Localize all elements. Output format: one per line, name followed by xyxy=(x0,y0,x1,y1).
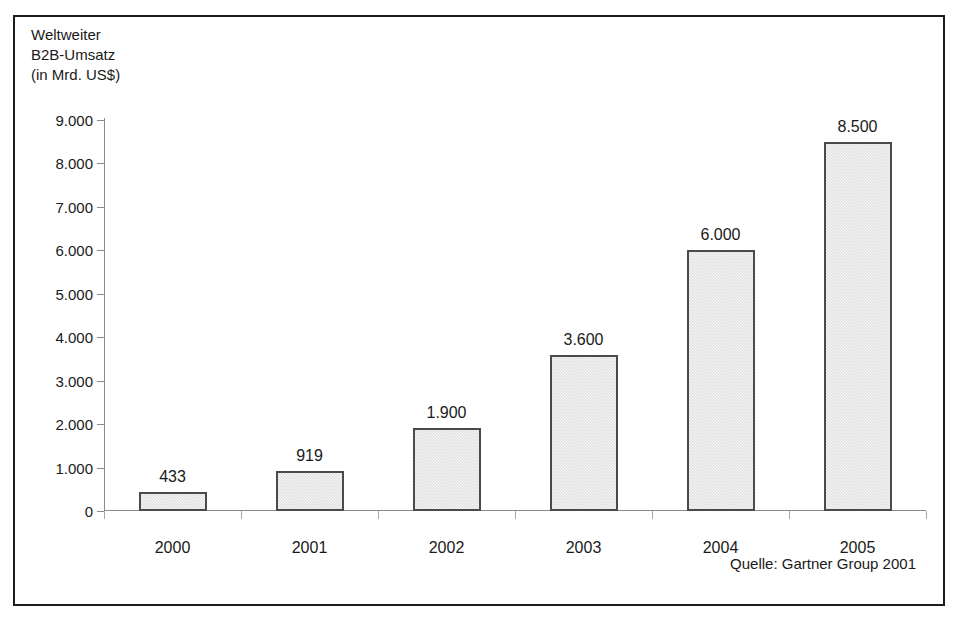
x-axis-tick xyxy=(926,511,927,519)
x-axis-tick xyxy=(515,511,516,519)
bar-group: 3.6002003 xyxy=(515,120,652,511)
bar-value-label: 433 xyxy=(159,468,186,486)
y-axis-label: 5.000 xyxy=(55,285,93,302)
bar[interactable] xyxy=(413,428,481,511)
chart-figure: Weltweiter B2B-Umsatz (in Mrd. US$) 01.0… xyxy=(13,15,945,606)
bar-value-label: 8.500 xyxy=(837,118,877,136)
x-axis-label: 2003 xyxy=(566,539,602,557)
source-note: Quelle: Gartner Group 2001 xyxy=(730,555,916,572)
bar[interactable] xyxy=(687,250,755,511)
y-axis-label: 6.000 xyxy=(55,242,93,259)
y-axis-label: 7.000 xyxy=(55,198,93,215)
x-axis-tick xyxy=(789,511,790,519)
y-axis-tick xyxy=(97,250,104,251)
bar-group: 6.0002004 xyxy=(652,120,789,511)
bar-group: 4332000 xyxy=(104,120,241,511)
chart-title-line-2: B2B-Umsatz xyxy=(31,45,120,65)
chart-title-line-1: Weltweiter xyxy=(31,25,120,45)
y-axis-tick xyxy=(97,163,104,164)
x-axis-label: 2000 xyxy=(155,539,191,557)
bar[interactable] xyxy=(276,471,344,511)
y-axis-tick xyxy=(97,120,104,121)
x-axis-tick xyxy=(104,511,105,519)
bar[interactable] xyxy=(824,142,892,511)
bar-value-label: 3.600 xyxy=(563,331,603,349)
bar[interactable] xyxy=(550,355,618,511)
x-axis-label: 2002 xyxy=(429,539,465,557)
x-axis-tick xyxy=(652,511,653,519)
y-axis-tick xyxy=(97,468,104,469)
x-axis-tick xyxy=(378,511,379,519)
y-axis-tick xyxy=(97,511,104,512)
x-axis-label: 2001 xyxy=(292,539,328,557)
bar-group: 8.5002005 xyxy=(789,120,926,511)
bar-group: 9192001 xyxy=(241,120,378,511)
y-axis-label: 9.000 xyxy=(55,112,93,129)
y-axis-tick xyxy=(97,424,104,425)
bar-group: 1.9002002 xyxy=(378,120,515,511)
y-axis-tick xyxy=(97,381,104,382)
y-axis-tick xyxy=(97,294,104,295)
chart-title-line-3: (in Mrd. US$) xyxy=(31,65,120,85)
plot-area: 01.0002.0003.0004.0005.0006.0007.0008.00… xyxy=(104,120,926,511)
y-axis-label: 2.000 xyxy=(55,416,93,433)
y-axis-label: 8.000 xyxy=(55,155,93,172)
y-axis-label: 0 xyxy=(85,503,93,520)
chart-title: Weltweiter B2B-Umsatz (in Mrd. US$) xyxy=(31,25,120,85)
bar-value-label: 1.900 xyxy=(426,404,466,422)
y-axis-label: 1.000 xyxy=(55,459,93,476)
y-axis-tick xyxy=(97,207,104,208)
y-axis-label: 4.000 xyxy=(55,329,93,346)
bar-value-label: 6.000 xyxy=(700,226,740,244)
bar-value-label: 919 xyxy=(296,447,323,465)
bar[interactable] xyxy=(139,492,207,511)
y-axis-tick xyxy=(97,337,104,338)
x-axis-tick xyxy=(241,511,242,519)
y-axis-label: 3.000 xyxy=(55,372,93,389)
